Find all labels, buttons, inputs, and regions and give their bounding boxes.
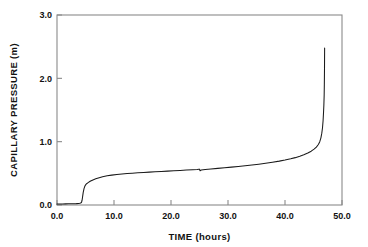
x-axis-tick-labels: 0.010.020.030.040.050.0	[51, 211, 351, 221]
x-tick-label: 10.0	[105, 211, 123, 221]
y-tick-label: 0.0	[39, 200, 52, 210]
x-tick-label: 0.0	[51, 211, 64, 221]
y-axis-tick-labels: 0.01.02.03.0	[39, 10, 52, 210]
x-tick-label: 30.0	[219, 211, 237, 221]
y-axis-title: CAPILLARY PRESSURE (m)	[8, 43, 19, 177]
x-tick-label: 50.0	[333, 211, 351, 221]
chart-figure: 0.010.020.030.040.050.0 0.01.02.03.0 TIM…	[0, 0, 368, 247]
y-tick-label: 1.0	[39, 137, 52, 147]
capillary-pressure-time-plot: 0.010.020.030.040.050.0 0.01.02.03.0 TIM…	[0, 0, 368, 247]
x-tick-label: 20.0	[162, 211, 180, 221]
y-tick-label: 3.0	[39, 10, 52, 20]
x-axis-title: TIME (hours)	[168, 231, 230, 242]
plot-background	[57, 15, 342, 205]
y-tick-label: 2.0	[39, 74, 52, 84]
x-tick-label: 40.0	[276, 211, 294, 221]
